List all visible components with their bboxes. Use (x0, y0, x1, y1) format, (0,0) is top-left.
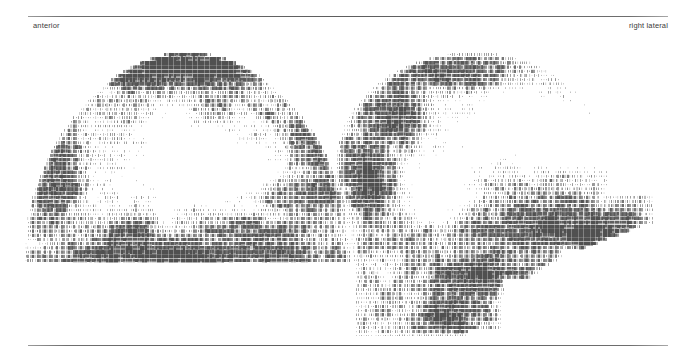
right-lateral-skull-scan (336, 48, 676, 336)
view-label-right-lateral: right lateral (629, 21, 668, 31)
horizontal-rule-bottom (28, 345, 668, 346)
anterior-skull-scan (22, 44, 352, 264)
figure-canvas: anterior right lateral (0, 0, 693, 357)
horizontal-rule-top (28, 16, 668, 17)
view-label-anterior: anterior (33, 21, 60, 31)
